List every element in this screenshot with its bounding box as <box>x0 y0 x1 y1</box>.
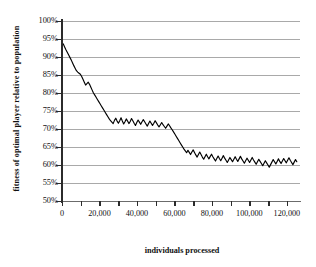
x-axis-tick-label: 120,000 <box>265 209 309 218</box>
x-axis-minor-tick <box>268 201 269 206</box>
x-axis-line <box>62 201 301 202</box>
x-axis-minor-tick <box>81 201 82 206</box>
y-axis-tick <box>56 39 62 40</box>
y-axis-tick <box>56 111 62 112</box>
y-axis-tick <box>56 75 62 76</box>
x-axis-tick <box>99 201 100 206</box>
y-axis-tick <box>56 129 62 130</box>
x-axis-minor-tick <box>231 201 232 206</box>
x-axis-tick <box>249 201 250 206</box>
y-axis-tick-label: 80% <box>30 89 58 97</box>
fitness-line-chart: fitness of optimal player relative to po… <box>0 0 316 267</box>
y-axis-title: fitness of optimal player relative to po… <box>12 9 21 209</box>
y-axis-tick <box>56 147 62 148</box>
x-axis-tick <box>62 201 63 206</box>
y-axis-tick <box>56 183 62 184</box>
y-axis-tick-label: 95% <box>30 35 58 43</box>
y-axis-tick <box>56 21 62 22</box>
x-axis-tick <box>212 201 213 206</box>
y-axis-tick-label: 75% <box>30 107 58 115</box>
y-axis-tick-label: 55% <box>30 179 58 187</box>
x-axis-minor-tick <box>193 201 194 206</box>
y-axis-tick-labels: 100%95%90%85%80%75%70%65%60%55%50% <box>24 0 58 267</box>
y-axis-tick-label: 70% <box>30 125 58 133</box>
y-axis-tick <box>56 93 62 94</box>
y-axis-tick-label: 85% <box>30 71 58 79</box>
x-axis-tick <box>137 201 138 206</box>
y-axis-tick-label: 50% <box>30 197 58 205</box>
y-axis-tick-label: 100% <box>30 17 58 25</box>
x-axis-tick <box>287 201 288 206</box>
y-axis-tick <box>56 57 62 58</box>
y-axis-tick-label: 65% <box>30 143 58 151</box>
x-axis-title: individuals processed <box>62 246 302 255</box>
x-axis-tick <box>174 201 175 206</box>
y-axis-tick-label: 60% <box>30 161 58 169</box>
x-axis-minor-tick <box>118 201 119 206</box>
data-series-line <box>62 21 300 201</box>
y-axis-tick-label: 90% <box>30 53 58 61</box>
y-axis-tick <box>56 165 62 166</box>
plot-area <box>62 21 300 201</box>
x-axis-minor-tick <box>156 201 157 206</box>
